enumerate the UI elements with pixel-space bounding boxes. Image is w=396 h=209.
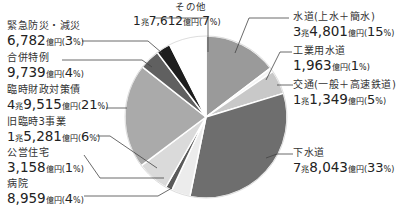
label-kyurinji: 旧臨時3事業 1兆5,281億円(6%)	[7, 117, 100, 144]
label-gappei: 合併特例 9,739億円(4%)	[7, 53, 84, 80]
label-kotsu: 交通(一般＋高速鉄道) 1兆1,349億円(5%)	[293, 80, 396, 107]
pie-slices	[125, 36, 287, 198]
label-suido: 水道(上水＋簡水) 3兆4,801億円(15%)	[293, 12, 394, 39]
label-kinkyu: 緊急防災・減災 6,782億円(3%)	[7, 21, 84, 48]
label-sonota: その他 1兆7,612億円(7%)	[175, 2, 221, 27]
label-kogyo: 工業用水道 1,963億円(1%)	[293, 46, 370, 73]
leader-byoin	[84, 188, 172, 196]
label-gesuido: 下水道 7兆8,043億円(33%)	[293, 148, 394, 175]
leader-kinkyu	[82, 41, 162, 53]
label-byoin: 病院 8,959億円(4%)	[7, 179, 84, 206]
label-jutaku: 公営住宅 3,158億円(1%)	[7, 148, 84, 175]
label-rinji: 臨時財政対策債 4兆9,515億円(21%)	[7, 85, 108, 112]
